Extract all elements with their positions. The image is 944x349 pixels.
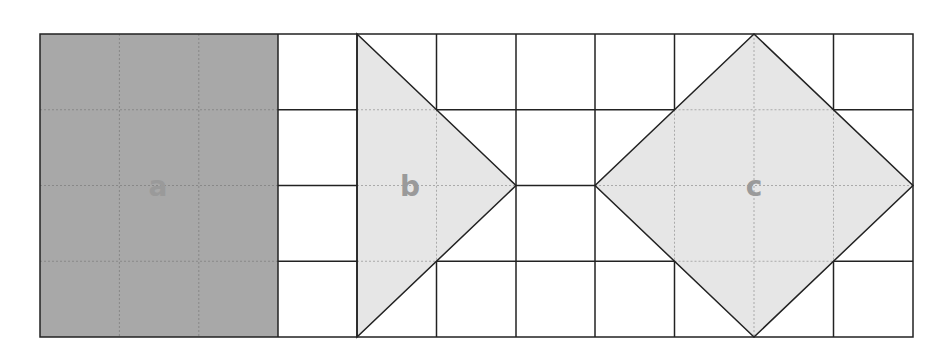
label-a: a xyxy=(149,170,168,203)
label-b: b xyxy=(400,170,420,203)
grid-diagram: a b c xyxy=(0,0,944,349)
label-c: c xyxy=(746,170,763,203)
